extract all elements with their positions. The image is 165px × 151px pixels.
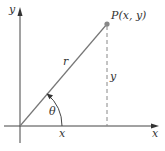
x-axis-label: x: [152, 128, 158, 139]
horizontal-segment-label: x: [59, 128, 65, 139]
y-axis-label: y: [9, 4, 15, 15]
point-p-marker: [104, 21, 109, 26]
radius-line: [20, 24, 107, 126]
radius-label: r: [63, 56, 68, 67]
polar-coordinates-diagram: y x P(x, y) r y x θ: [0, 0, 165, 151]
vertical-segment-label: y: [110, 71, 116, 82]
y-axis-arrow-icon: [18, 7, 23, 16]
point-p-label: P(x, y): [111, 10, 146, 21]
diagram-canvas: [0, 0, 165, 151]
theta-label: θ: [49, 106, 56, 117]
